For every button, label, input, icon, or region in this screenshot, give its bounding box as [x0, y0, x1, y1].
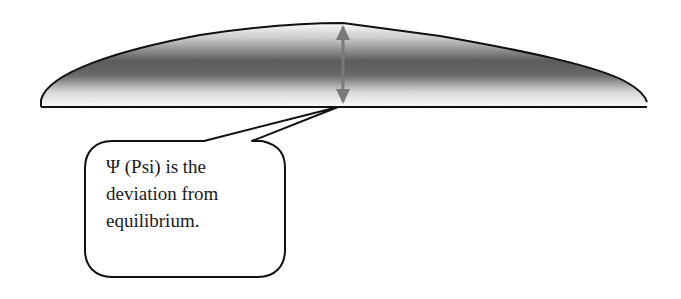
callout-line-2: deviation from — [106, 180, 276, 207]
callout-line-1: Ψ (Psi) is the — [106, 153, 276, 180]
callout-line-3: equilibrium. — [106, 207, 276, 234]
wave-diagram — [0, 0, 681, 299]
callout-text: Ψ (Psi) is the deviation from equilibriu… — [106, 153, 276, 234]
